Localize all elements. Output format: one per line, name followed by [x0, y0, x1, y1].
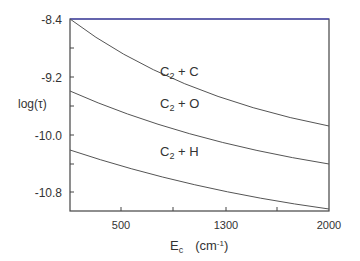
curve-label: C2 + C: [160, 64, 199, 81]
y-axis-title: log(τ): [18, 97, 47, 111]
curve-c2-c: [70, 19, 329, 126]
x-tick-label: 1300: [214, 219, 238, 231]
x-tick-label: 500: [112, 219, 130, 231]
curve-c2-o: [70, 91, 329, 164]
chart: -8.4 -9.2 -10.0 -10.8 500 1300 2000 log(…: [0, 0, 360, 261]
x-tick-label: 2000: [317, 219, 341, 231]
y-tick-label: -8.4: [41, 13, 62, 27]
curve-label: C2 + H: [160, 144, 199, 161]
y-tick-label: -10.0: [35, 129, 63, 143]
curve-c2-h: [70, 150, 329, 209]
curve-label: C2 + O: [160, 96, 199, 113]
plot-frame: [70, 19, 329, 211]
x-axis-title: Ec(cm-1): [170, 238, 228, 255]
y-tick-label: -9.2: [41, 71, 62, 85]
y-tick-label: -10.8: [35, 186, 63, 200]
